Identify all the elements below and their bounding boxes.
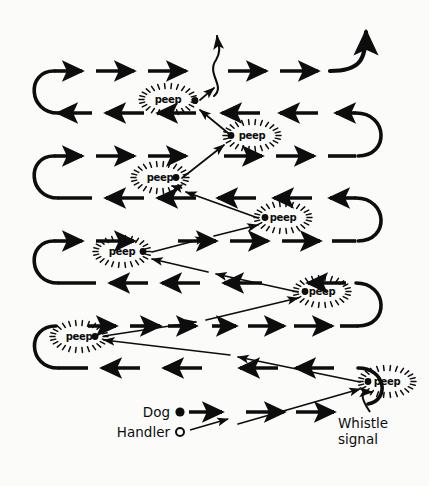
peep-label: peep [66,331,93,342]
dog-position-dot [365,378,372,385]
dog-position-dot [192,97,199,104]
peep-ray [76,321,77,326]
peep-ray [125,262,126,267]
peep-ray [76,347,77,352]
dog-position-dot [173,174,180,181]
legend-whistle-label-line2: signal [338,431,378,447]
peep-ray [286,228,287,233]
peep-ray [165,84,166,89]
peep-ray [319,276,320,281]
peep-ray [249,120,250,125]
peep-ray [286,202,287,207]
peep-ray [249,146,250,151]
peep-ray [280,228,281,233]
peep-ray [119,262,120,267]
dog-position-dot [92,333,99,340]
peep-ray [163,162,164,167]
peep-ray [390,366,391,371]
peep-ray [384,392,385,397]
peep-ray [171,110,172,115]
peep-ray [255,120,256,125]
peep-label: peep [309,286,336,297]
peep-label: peep [374,376,401,387]
peep-label: peep [270,212,297,223]
peep-ray [255,146,256,151]
legend-handler-label: Handler [117,424,171,440]
dog-position-dot [302,288,309,295]
diagram-svg: peeppeeppeeppeeppeeppeeppeeppeep Dog Han… [0,0,429,486]
peep-ray [325,276,326,281]
diagram-canvas: peeppeeppeeppeeppeeppeeppeeppeep Dog Han… [0,0,429,486]
dog-position-dot [228,132,235,139]
peep-ray [119,236,120,241]
peep-ray [125,236,126,241]
peep-ray [82,347,83,352]
peep-ray [82,321,83,326]
peep-label: peep [239,130,266,141]
peep-ray [384,366,385,371]
peep-ray [319,302,320,307]
peep-ray [390,392,391,397]
peep-ray [157,188,158,193]
peep-label: peep [155,94,182,105]
legend-dog-marker-dot [175,407,184,416]
peep-label: peep [147,172,174,183]
peep-label: peep [109,246,136,257]
peep-ray [171,84,172,89]
peep-ray [163,188,164,193]
peep-ray [325,302,326,307]
legend-whistle-label-line1: Whistle [338,415,388,431]
peep-ray [165,110,166,115]
dog-position-dot [262,214,269,221]
peep-ray [157,162,158,167]
peep-ray [280,202,281,207]
legend-dog-label: Dog [143,404,170,420]
dog-position-dot [140,248,147,255]
